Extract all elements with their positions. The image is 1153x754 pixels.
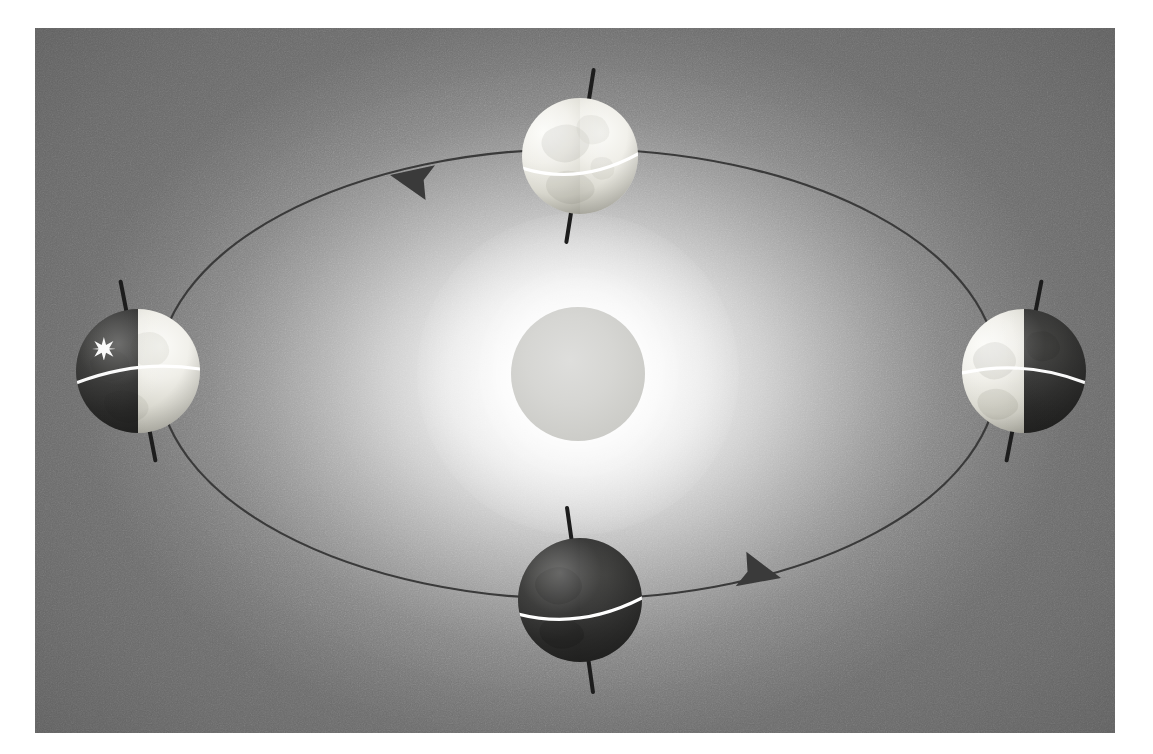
earth-bottom-night-side-right xyxy=(580,538,642,662)
earth-left-day-side xyxy=(138,309,200,433)
diagram-panel xyxy=(35,28,1115,733)
scene xyxy=(35,28,1115,733)
earth-right-globe xyxy=(962,309,1086,433)
sun xyxy=(511,307,645,441)
earth-bottom-night-side-left xyxy=(518,538,580,662)
orbit-arrow-bottom-right xyxy=(736,551,785,596)
earth-right-day-side xyxy=(962,309,1024,433)
earth-top-day-side-right xyxy=(580,98,638,214)
earth-left-globe xyxy=(76,309,200,433)
earth-right-night-side xyxy=(1024,309,1086,433)
earth-bottom-globe xyxy=(518,538,642,662)
earth-left-night-side xyxy=(76,309,138,433)
earth-top-day-side-left xyxy=(522,98,580,214)
earth-top-globe xyxy=(522,98,638,214)
illustration-stage xyxy=(0,0,1153,754)
